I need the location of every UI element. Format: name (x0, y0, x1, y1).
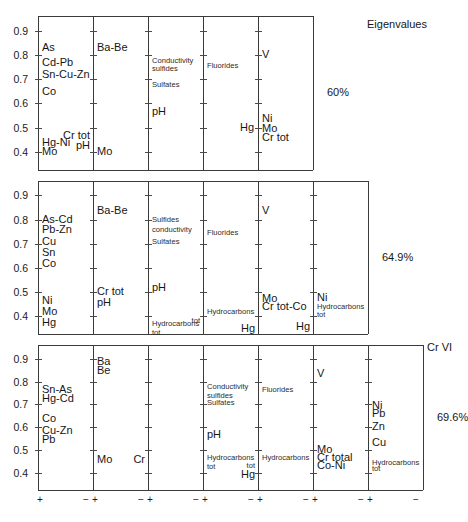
y-tick-r1-p4-0.5 (200, 128, 207, 129)
variable-label-r3-p1-2: Hg-Cd (42, 393, 74, 405)
variable-label-r1-p3-2: Sulfates (152, 81, 179, 90)
variable-label-r2-p6-4: Hg (262, 321, 310, 333)
variable-label-r2-p4-1: Fluorides (207, 229, 238, 238)
y-tick-r3-p1-0.8 (35, 382, 42, 383)
chart-canvas: 0.90.80.70.60.50.4AsCd-PbSn-Cu-ZnCoHg-Ni… (0, 0, 468, 522)
variable-label-r1-p2-4: Mo (97, 146, 112, 158)
plot-border-top-row-1 (38, 16, 313, 17)
x-axis-plus-6: + (310, 495, 320, 505)
y-axis-label-r2-0.6: 0.6 (2, 263, 28, 274)
y-axis-label-r1-0.6: 0.6 (2, 98, 28, 109)
eigenvalue-row-1: 60% (327, 87, 349, 98)
variable-label-r2-p5-3: Cr tot-Co (262, 301, 307, 313)
x-axis-minus-4: − (246, 495, 256, 505)
y-axis-label-r3-0.5: 0.5 (2, 445, 28, 456)
y-tick-r2-p3-0.4 (145, 316, 152, 317)
x-axis-plus-4: + (200, 495, 210, 505)
y-tick-r1-p3-0.8 (145, 55, 152, 56)
y-tick-r3-p2-0.4 (90, 473, 97, 474)
y-tick-r1-p3-0.6 (145, 103, 152, 104)
panel-divider-r1-3 (203, 16, 204, 170)
y-tick-r3-p7-0.7 (365, 404, 372, 405)
y-tick-r2-p6-0.8 (310, 220, 317, 221)
y-tick-r1-p3-0.7 (145, 79, 152, 80)
y-tick-r3-p6-0.5 (310, 450, 317, 451)
variable-label-r1-p1-4: Co (42, 86, 56, 98)
y-tick-r2-p3-0.8 (145, 220, 152, 221)
y-tick-r2-p4-0.9 (200, 195, 207, 196)
eigenvalue-row-3: 69.6% (437, 412, 468, 423)
y-tick-r1-p4-0.9 (200, 31, 207, 32)
y-tick-r1-p1-0.6 (35, 103, 42, 104)
variable-label-r3-p6-4: Co-Ni (317, 460, 345, 472)
y-tick-r1-p3-0.4 (145, 152, 152, 153)
y-axis-label-r1-0.5: 0.5 (2, 123, 28, 134)
y-tick-r1-p2-0.4 (90, 152, 97, 153)
x-axis-minus-6: − (356, 495, 366, 505)
variable-label-r3-p7-6: tot (372, 465, 380, 474)
panel-divider-r3-6 (368, 345, 369, 490)
panel-divider-r1-2 (148, 16, 149, 170)
y-tick-r1-p4-0.7 (200, 79, 207, 80)
y-tick-r3-p6-0.6 (310, 427, 317, 428)
plot-border-bottom-row-3 (38, 490, 423, 491)
y-tick-r1-p2-0.5 (90, 128, 97, 129)
panel-divider-r1-0 (38, 16, 39, 170)
variable-label-r2-p4-3: tot (152, 317, 200, 326)
y-tick-r2-p3-0.6 (145, 268, 152, 269)
panel-divider-r2-3 (203, 181, 204, 334)
x-axis-plus-1: + (35, 495, 45, 505)
variable-label-r3-p6-1: V (317, 368, 324, 380)
variable-label-r1-p4-1: Fluorides (207, 62, 238, 71)
y-axis-label-r1-0.9: 0.9 (2, 26, 28, 37)
y-tick-r1-p5-0.7 (255, 79, 262, 80)
y-tick-r2-p6-0.4 (310, 316, 317, 317)
variable-label-r1-p1-1: As (42, 42, 55, 54)
y-tick-r1-p5-0.5 (255, 128, 262, 129)
y-tick-r3-p4-0.7 (200, 404, 207, 405)
panel-divider-r3-1 (93, 345, 94, 490)
y-tick-r3-p7-0.4 (365, 473, 372, 474)
y-tick-r2-p1-0.7 (35, 244, 42, 245)
variable-label-r3-p4-2: Sulfates (207, 399, 234, 408)
y-tick-r1-p1-0.9 (35, 31, 42, 32)
y-tick-r1-p4-0.6 (200, 103, 207, 104)
variable-label-r3-p5-1: Fluorides (262, 386, 293, 395)
y-axis-label-r1-0.7: 0.7 (2, 74, 28, 85)
y-tick-r1-p2-0.6 (90, 103, 97, 104)
variable-label-r2-p3-4: pH (152, 282, 166, 294)
y-tick-r2-p4-0.4 (200, 316, 207, 317)
y-tick-r2-p4-0.7 (200, 244, 207, 245)
y-tick-r2-p1-0.5 (35, 292, 42, 293)
y-axis-label-r2-0.8: 0.8 (2, 215, 28, 226)
y-tick-r1-p5-0.9 (255, 31, 262, 32)
panel-divider-r1-5 (313, 16, 314, 170)
y-tick-r1-p2-0.8 (90, 55, 97, 56)
variable-label-r3-p8-1: Cr VI (427, 342, 452, 354)
y-tick-r3-p6-0.9 (310, 359, 317, 360)
variable-label-r1-p2-1: Ba-Be (97, 42, 128, 54)
x-axis-minus-5: − (301, 495, 311, 505)
y-tick-r1-p3-0.9 (145, 31, 152, 32)
variable-label-r3-p7-4: Cu (372, 437, 386, 449)
y-tick-r1-p5-0.6 (255, 103, 262, 104)
y-tick-r3-p2-0.5 (90, 450, 97, 451)
y-tick-r3-p4-0.4 (200, 473, 207, 474)
x-axis-minus-2: − (136, 495, 146, 505)
y-tick-r2-p6-0.9 (310, 195, 317, 196)
y-tick-r3-p2-0.7 (90, 404, 97, 405)
y-tick-r3-p2-0.8 (90, 382, 97, 383)
variable-label-r2-p1-5: Co (42, 258, 56, 270)
y-tick-r3-p7-0.6 (365, 427, 372, 428)
variable-label-r1-p5-5: Cr tot (262, 132, 289, 144)
y-tick-r2-p2-0.6 (90, 268, 97, 269)
y-axis-label-r3-0.7: 0.7 (2, 399, 28, 410)
x-axis-plus-3: + (145, 495, 155, 505)
y-tick-r2-p3-0.9 (145, 195, 152, 196)
y-tick-r2-p1-0.8 (35, 220, 42, 221)
x-axis-plus-2: + (90, 495, 100, 505)
y-tick-r3-p5-0.8 (255, 382, 262, 383)
y-tick-r2-p2-0.8 (90, 220, 97, 221)
y-axis-label-r3-0.4: 0.4 (2, 468, 28, 479)
y-tick-r3-p3-0.6 (145, 427, 152, 428)
